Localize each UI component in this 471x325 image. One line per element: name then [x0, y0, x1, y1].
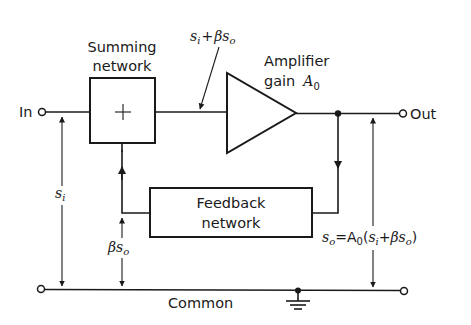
- common-right-terminal: [401, 288, 408, 295]
- feedback-voltage-label: βso: [107, 239, 129, 257]
- summing-network-label-2: network: [93, 58, 152, 74]
- common-left-terminal: [38, 286, 45, 293]
- amp-input-pointer-arrow: [200, 47, 219, 109]
- feedback-network-label-2: network: [202, 215, 261, 231]
- feedback-network-label-1: Feedback: [196, 195, 266, 211]
- common-wire: [45, 290, 401, 291]
- output-equation-label: so=A0(si+βso): [322, 229, 417, 247]
- feedback-return-wire: [122, 150, 150, 213]
- summing-network-label-1: Summing: [87, 39, 156, 55]
- amplifier-label-2: gainA0: [264, 73, 320, 92]
- common-label: Common: [168, 295, 233, 311]
- output-label: Out: [410, 106, 437, 122]
- amp-input-signal-label: si+βso: [190, 28, 235, 46]
- feedback-amplifier-diagram: In Summing network si+βso Amplifier gain…: [0, 0, 471, 325]
- output-terminal: [400, 110, 407, 117]
- input-label: In: [19, 104, 32, 120]
- feedback-input-wire: [312, 166, 338, 213]
- input-voltage-label: si: [55, 185, 65, 203]
- amplifier-label-1: Amplifier: [264, 53, 329, 69]
- input-terminal: [39, 109, 46, 116]
- summing-network-block: [90, 78, 155, 143]
